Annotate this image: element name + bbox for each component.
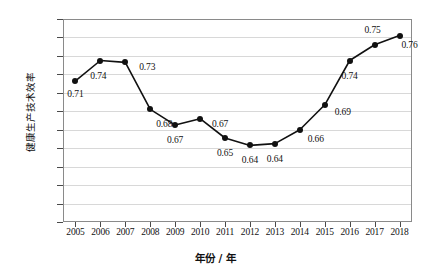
y-tick-mark bbox=[57, 19, 63, 20]
data-point-label: 0.75 bbox=[353, 26, 393, 36]
data-point bbox=[372, 42, 378, 48]
y-axis-title: 健康生产技术效率 bbox=[23, 32, 37, 192]
data-point-label: 0.67 bbox=[200, 120, 240, 130]
data-point-label: 0.74 bbox=[330, 72, 370, 82]
data-point-label: 0.68 bbox=[144, 120, 184, 130]
data-point-label: 0.64 bbox=[255, 155, 295, 165]
gridline bbox=[64, 130, 411, 131]
data-point-label: 0.74 bbox=[78, 72, 118, 82]
gridline bbox=[64, 204, 411, 205]
y-tick-mark bbox=[57, 56, 63, 57]
gridline bbox=[64, 167, 411, 168]
gridline bbox=[64, 93, 411, 94]
data-point-label: 0.73 bbox=[127, 63, 167, 73]
y-tick-mark bbox=[57, 185, 63, 186]
data-point bbox=[397, 33, 403, 39]
x-tick-label: 2018 bbox=[380, 228, 420, 238]
y-tick-mark bbox=[57, 167, 63, 168]
data-point bbox=[347, 58, 353, 64]
data-point-label: 0.69 bbox=[323, 108, 363, 118]
data-point-label: 0.66 bbox=[296, 135, 336, 145]
line-chart: 0.780.760.740.720.700.680.660.640.620.60… bbox=[0, 0, 431, 277]
gridline bbox=[64, 37, 411, 38]
y-tick-mark bbox=[57, 74, 63, 75]
y-tick-mark bbox=[57, 204, 63, 205]
data-point-label: 0.67 bbox=[155, 136, 195, 146]
gridline bbox=[64, 56, 411, 57]
gridline bbox=[64, 185, 411, 186]
data-point bbox=[97, 58, 103, 64]
x-axis-title: 年份 / 年 bbox=[0, 250, 431, 265]
data-point bbox=[272, 141, 278, 147]
data-point bbox=[297, 127, 303, 133]
y-tick-mark bbox=[57, 37, 63, 38]
data-point-label: 0.76 bbox=[390, 41, 430, 51]
data-point-label: 0.71 bbox=[55, 90, 95, 100]
y-tick-mark bbox=[57, 148, 63, 149]
y-tick-mark bbox=[57, 111, 63, 112]
y-tick-mark bbox=[57, 130, 63, 131]
y-tick-mark bbox=[57, 222, 63, 223]
